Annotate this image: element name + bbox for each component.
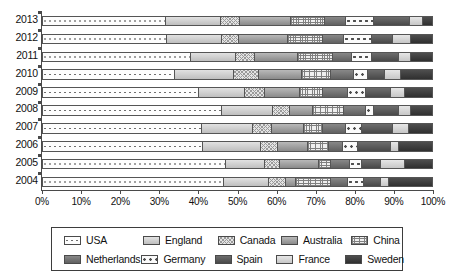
- bar-segment-sweden: [405, 160, 432, 169]
- stacked-bar-2008: [42, 105, 433, 116]
- stacked-bar-2011: [42, 52, 433, 63]
- stacked-bar-chart: 2013201220112010200920082007200620052004…: [0, 0, 455, 280]
- bar-segment-france: [410, 17, 423, 26]
- y-axis-label-2008: 2008: [15, 103, 38, 114]
- bar-segment-netherlands: [323, 35, 344, 44]
- legend-item-france[interactable]: France: [276, 251, 345, 268]
- bar-row: [42, 141, 433, 152]
- legend-item-usa[interactable]: USA: [52, 232, 143, 249]
- chart-legend: USAEnglandCanadaAustraliaChina Netherlan…: [51, 227, 403, 271]
- legend-row-1: USAEnglandCanadaAustraliaChina: [52, 232, 404, 249]
- x-axis-label-70pct: 70%: [306, 196, 325, 207]
- legend-label-netherlands: Netherlands: [86, 254, 140, 265]
- legend-item-spain[interactable]: Spain: [215, 251, 277, 268]
- y-axis-tick: [38, 11, 42, 14]
- bar-segment-china: [302, 70, 331, 79]
- stacked-bar-2005: [42, 159, 433, 170]
- bar-segment-germany: [346, 124, 362, 133]
- bar-segment-sweden: [389, 178, 432, 187]
- bar-segment-sweden: [409, 124, 432, 133]
- bar-segment-spain: [358, 142, 391, 151]
- legend-item-netherlands[interactable]: Netherlands: [52, 251, 141, 268]
- bar-segment-china: [308, 142, 329, 151]
- legend-swatch-germany: [141, 255, 158, 264]
- legend-swatch-netherlands: [64, 255, 81, 264]
- stacked-bar-2013: [42, 16, 433, 27]
- bar-segment-france: [399, 106, 411, 115]
- bar-segment-france: [391, 142, 399, 151]
- y-axis-category-labels: 2013201220112010200920082007200620052004: [0, 0, 40, 200]
- legend-item-china[interactable]: China: [351, 232, 404, 249]
- legend-row-2: NetherlandsGermanySpainFranceSweden: [52, 251, 404, 268]
- bar-segment-canada: [222, 35, 240, 44]
- bar-segment-usa: [43, 160, 226, 169]
- x-axis-label-60pct: 60%: [267, 196, 286, 207]
- bar-segment-china: [298, 53, 333, 62]
- bar-segment-canada: [245, 88, 264, 97]
- bar-row: [42, 105, 433, 116]
- bar-segment-germany: [354, 70, 368, 79]
- bar-segment-china: [296, 178, 331, 187]
- legend-label-france: France: [298, 254, 329, 265]
- legend-swatch-england: [143, 236, 160, 245]
- bar-segment-sweden: [423, 17, 432, 26]
- bar-row: [42, 177, 433, 188]
- bar-segment-canada: [261, 142, 279, 151]
- bar-segment-canada: [236, 53, 255, 62]
- y-axis-tick: [38, 47, 42, 50]
- bar-row: [42, 52, 433, 63]
- legend-item-germany[interactable]: Germany: [141, 251, 214, 268]
- y-axis-tick: [38, 83, 42, 86]
- bar-segment-china: [288, 35, 323, 44]
- bar-row: [42, 159, 433, 170]
- bar-segment-sweden: [411, 53, 432, 62]
- bar-segment-germany: [352, 53, 371, 62]
- bar-segment-canada: [273, 106, 291, 115]
- bar-segment-australia: [239, 35, 288, 44]
- legend-item-canada[interactable]: Canada: [218, 232, 281, 249]
- bar-segment-england: [167, 35, 221, 44]
- x-axis-label-100pct: 100%: [421, 196, 445, 207]
- y-axis-label-2012: 2012: [15, 32, 38, 43]
- bar-segment-netherlands: [331, 160, 350, 169]
- legend-label-usa: USA: [86, 235, 107, 246]
- y-axis-label-2007: 2007: [15, 121, 38, 132]
- bar-row: [42, 69, 433, 80]
- legend-item-sweden[interactable]: Sweden: [345, 251, 404, 268]
- bar-segment-germany: [348, 88, 366, 97]
- bar-segment-netherlands: [323, 124, 346, 133]
- y-axis-tick: [38, 118, 42, 121]
- bar-segment-spain: [364, 178, 382, 187]
- bar-segment-china: [319, 160, 331, 169]
- y-axis-tick: [38, 154, 42, 157]
- x-axis-tick: [355, 190, 356, 194]
- bar-series-container: [42, 11, 433, 190]
- legend-swatch-canada: [218, 236, 235, 245]
- bar-segment-usa: [43, 142, 203, 151]
- bar-segment-england: [166, 17, 222, 26]
- bar-segment-netherlands: [331, 70, 354, 79]
- legend-label-germany: Germany: [163, 254, 205, 265]
- y-axis-label-2013: 2013: [15, 14, 38, 25]
- bar-segment-australia: [278, 142, 307, 151]
- bar-segment-netherlands: [344, 106, 365, 115]
- x-axis-tick: [120, 190, 121, 194]
- bar-segment-australia: [286, 178, 296, 187]
- y-axis-label-2004: 2004: [15, 175, 38, 186]
- bar-segment-france: [381, 178, 389, 187]
- bar-segment-france: [381, 160, 404, 169]
- y-axis-tick: [38, 172, 42, 175]
- legend-item-england[interactable]: England: [143, 232, 218, 249]
- bar-segment-usa: [43, 124, 202, 133]
- legend-item-australia[interactable]: Australia: [281, 232, 351, 249]
- bar-segment-germany: [366, 106, 374, 115]
- bar-segment-england: [224, 178, 269, 187]
- bar-segment-germany: [348, 178, 364, 187]
- x-axis-label-40pct: 40%: [189, 196, 208, 207]
- bar-segment-spain: [368, 70, 386, 79]
- bar-segment-australia: [255, 53, 298, 62]
- bar-segment-sweden: [411, 106, 432, 115]
- bar-segment-usa: [43, 88, 199, 97]
- y-axis-label-2005: 2005: [15, 157, 38, 168]
- bar-segment-australia: [259, 70, 302, 79]
